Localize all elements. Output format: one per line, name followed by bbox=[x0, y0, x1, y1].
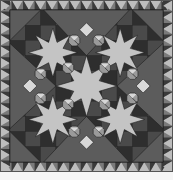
quilt-image bbox=[0, 0, 173, 172]
bottom-strip bbox=[0, 172, 173, 180]
